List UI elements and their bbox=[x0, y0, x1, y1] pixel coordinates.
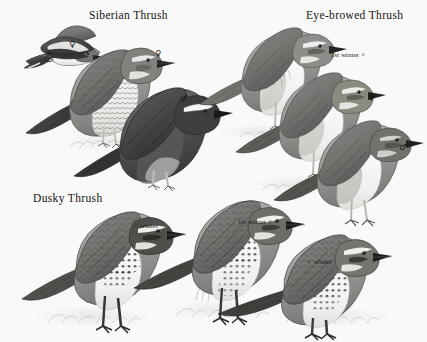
label-siberian-female: ♀ bbox=[155, 49, 161, 57]
label-siberian-flight-female: ♀ bbox=[69, 40, 75, 48]
label-dusky-male-winter: ♂ winter bbox=[133, 223, 158, 230]
label-eye-browed-first-winter-female: 1st winter ♀ bbox=[331, 52, 366, 59]
label-siberian-male: ♂ bbox=[180, 94, 187, 102]
illustration-plate: Siberian Thrush Eye-browed Thrush Dusky … bbox=[0, 0, 427, 342]
label-dusky-female-winter: ♀ winter bbox=[307, 259, 332, 266]
title-eye-browed-thrush: Eye-browed Thrush bbox=[306, 10, 403, 22]
label-eye-browed-male: ♂ bbox=[399, 143, 406, 151]
title-dusky-thrush: Dusky Thrush bbox=[33, 193, 102, 205]
title-siberian-thrush: Siberian Thrush bbox=[89, 10, 168, 22]
label-dusky-first-winter-female: 1st winter ♀ bbox=[238, 219, 273, 226]
label-eye-browed-female: ♀ bbox=[368, 93, 374, 101]
